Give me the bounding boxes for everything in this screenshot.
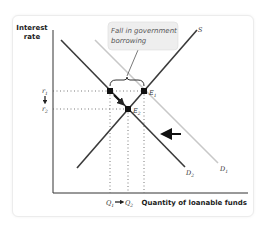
- r1-label: r1: [42, 87, 48, 96]
- demand-curve-d1: [95, 40, 218, 163]
- supply-label: S: [198, 26, 203, 34]
- demand-curve-d2: [61, 40, 185, 167]
- point-e2: [125, 106, 131, 112]
- callout-text-line2: borrowing: [111, 37, 147, 45]
- axes: [53, 30, 248, 193]
- callout-leader: [127, 50, 138, 76]
- e2-label: E2: [132, 107, 141, 116]
- movement-arrow-icon: [114, 95, 122, 103]
- q2-label: Q2: [125, 199, 133, 208]
- d1-label: D1: [219, 165, 228, 174]
- e1-label: E1: [148, 89, 157, 98]
- supply-curve-s: [77, 30, 197, 168]
- d2-label: D2: [185, 169, 194, 178]
- x-axis-title: Quantity of loanable funds: [142, 199, 247, 207]
- y-axis-title-line1: Interest: [16, 24, 48, 32]
- callout-text-line1: Fall in government: [111, 27, 177, 35]
- r2-label: r2: [42, 105, 48, 114]
- point-d2-at-r1: [107, 88, 113, 94]
- q1-label: Q1: [106, 199, 114, 208]
- loanable-funds-chart: Interest rate Quantity of loanable funds…: [0, 0, 265, 227]
- y-axis-title-line2: rate: [24, 33, 41, 41]
- point-e1: [141, 88, 147, 94]
